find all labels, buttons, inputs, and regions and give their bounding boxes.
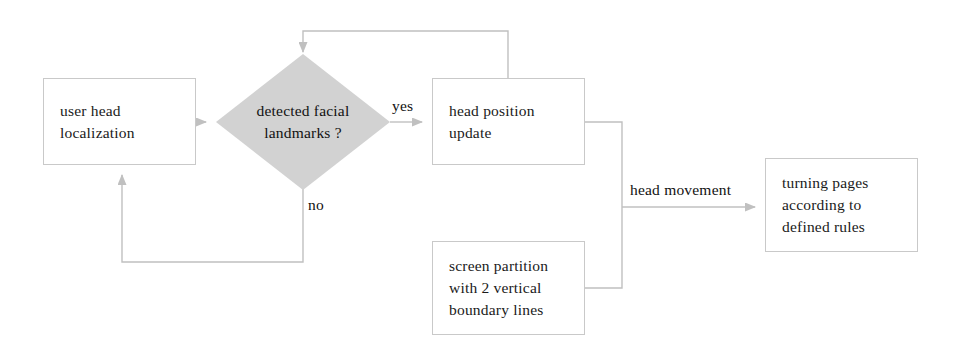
node-screen-partition[interactable]: screen partition with 2 vertical boundar… bbox=[432, 241, 585, 335]
node-detected-facial-landmarks-line-2: landmarks ? bbox=[257, 122, 350, 144]
node-detected-facial-landmarks[interactable]: detected facial landmarks ? bbox=[216, 54, 390, 190]
node-screen-partition-line-2: with 2 vertical bbox=[449, 277, 542, 299]
edge-screen-partition-to-merge bbox=[585, 207, 622, 288]
node-user-head-localization[interactable]: user head localization bbox=[43, 78, 196, 165]
node-detected-facial-landmarks-line-1: detected facial bbox=[257, 100, 350, 122]
node-head-position-update-line-1: head position bbox=[449, 100, 535, 122]
node-detected-facial-landmarks-text: detected facial landmarks ? bbox=[257, 100, 350, 144]
node-turning-pages-line-1: turning pages bbox=[782, 172, 869, 194]
edge-label-no: no bbox=[308, 196, 324, 215]
node-screen-partition-line-3: boundary lines bbox=[449, 299, 544, 321]
node-turning-pages-line-3: defined rules bbox=[782, 216, 865, 238]
node-screen-partition-line-1: screen partition bbox=[449, 255, 548, 277]
edge-label-head-movement: head movement bbox=[630, 181, 731, 200]
edge-head-position-to-merge bbox=[585, 122, 622, 207]
node-head-position-update-line-2: update bbox=[449, 122, 492, 144]
node-user-head-localization-line-2: localization bbox=[60, 122, 135, 144]
node-head-position-update[interactable]: head position update bbox=[432, 78, 585, 165]
node-turning-pages-line-2: according to bbox=[782, 194, 861, 216]
node-user-head-localization-line-1: user head bbox=[60, 100, 121, 122]
flowchart-canvas: user head localization detected facial l… bbox=[0, 0, 966, 363]
edge-label-yes: yes bbox=[392, 97, 413, 116]
node-turning-pages[interactable]: turning pages according to defined rules bbox=[765, 158, 918, 252]
